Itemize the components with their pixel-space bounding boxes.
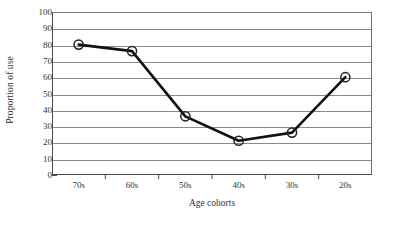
data-point-marker: [287, 128, 296, 137]
y-axis-title-text: Proportion of use: [5, 56, 15, 124]
y-axis-tick-label: 60: [26, 73, 52, 82]
series-overlay: [52, 12, 372, 175]
x-axis-tick-label: 40s: [232, 180, 245, 190]
y-axis-tick-label: 80: [26, 40, 52, 49]
y-axis-title: Proportion of use: [0, 0, 20, 180]
y-axis-tick-label: 70: [26, 56, 52, 65]
y-axis-tick-label: 30: [26, 122, 52, 131]
data-point-marker: [74, 40, 83, 49]
data-point-marker: [181, 112, 190, 121]
x-axis-tick-label: 20s: [339, 180, 352, 190]
y-axis-tick-label: 0: [26, 171, 52, 180]
y-axis-tick-label: 90: [26, 24, 52, 33]
y-axis-tick-group: 0102030405060708090100: [20, 12, 52, 175]
y-axis-tick-mark: [52, 175, 57, 176]
x-axis-title: Age cohorts: [52, 198, 372, 208]
x-axis-tick-group: 70s60s50s40s30s20s: [52, 180, 372, 194]
data-point-marker: [127, 47, 136, 56]
data-point-marker: [341, 73, 350, 82]
y-axis-tick-label: 10: [26, 154, 52, 163]
x-axis-tick-label: 30s: [286, 180, 299, 190]
x-axis-tick-label: 60s: [126, 180, 139, 190]
data-point-marker: [234, 136, 243, 145]
line-chart-figure: Proportion of use 0102030405060708090100…: [0, 0, 393, 225]
x-axis-tick-label: 70s: [72, 180, 85, 190]
y-axis-tick-label: 20: [26, 138, 52, 147]
y-axis-tick-label: 40: [26, 105, 52, 114]
x-axis-tick-label: 50s: [179, 180, 192, 190]
series-line: [79, 45, 346, 141]
y-axis-tick-label: 100: [26, 8, 52, 17]
y-axis-tick-label: 50: [26, 89, 52, 98]
